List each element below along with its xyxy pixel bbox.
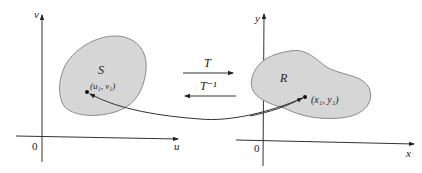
region-r: [251, 50, 370, 118]
v-axis-label: v: [34, 8, 39, 20]
point-u1v1-label: (u₁, v₁): [90, 81, 115, 91]
forward-transform-label: T: [204, 56, 212, 70]
region-s-label: S: [98, 63, 104, 77]
point-x1y1-label: (x₁, y₁): [311, 94, 339, 106]
point-x1y1: [303, 95, 307, 99]
origin-label-left: 0: [32, 140, 38, 152]
u-axis-label: u: [174, 140, 180, 152]
x-axis-label: x: [405, 147, 411, 159]
point-u1v1: [85, 90, 89, 94]
region-r-label: R: [279, 71, 288, 85]
inverse-transform-label: T⁻¹: [200, 79, 217, 93]
origin-label-right: 0: [254, 142, 260, 154]
xy-plane: [236, 14, 414, 166]
u-axis: [16, 136, 178, 139]
y-axis-label: y: [254, 12, 260, 24]
transformation-diagram: v u 0 S (u₁, v₁) T T⁻¹ y x 0 R (x₁, y₁): [0, 0, 422, 173]
